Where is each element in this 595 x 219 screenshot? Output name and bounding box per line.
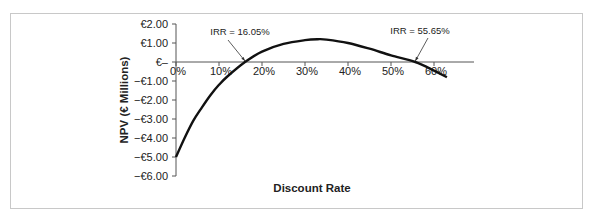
x-axis-title: Discount Rate [273, 182, 350, 194]
y-tick-label: €– [156, 56, 169, 68]
y-tick-label: −€6.00 [134, 170, 168, 182]
x-tick-label: 50% [382, 65, 404, 77]
irr-annotations: IRR = 16.05%IRR = 55.65% [210, 25, 450, 62]
y-tick-label: −€3.00 [134, 113, 168, 125]
x-tick-label: 30% [296, 65, 318, 77]
y-tick-label: −€4.00 [134, 132, 168, 144]
npv-curve [176, 39, 447, 157]
y-axis: €2.00€1.00€–−€1.00−€2.00−€3.00−€4.00−€5.… [134, 18, 176, 182]
x-tick-label: 20% [253, 65, 275, 77]
y-tick-label: −€5.00 [134, 151, 168, 163]
y-tick-label: −€2.00 [134, 94, 168, 106]
y-tick-label: −€1.00 [134, 75, 168, 87]
x-tick-label: 40% [339, 65, 361, 77]
x-tick-label: 0% [170, 65, 186, 77]
x-axis: 0%10%20%30%40%50%60% [170, 62, 474, 77]
y-tick-label: €1.00 [140, 37, 168, 49]
y-tick-label: €2.00 [140, 18, 168, 30]
npv-chart: €2.00€1.00€–−€1.00−€2.00−€3.00−€4.00−€5.… [0, 0, 595, 219]
y-axis-title: NPV (€ Millions) [118, 56, 130, 143]
irr-annotation-label: IRR = 55.65% [390, 25, 450, 36]
irr-annotation-label: IRR = 16.05% [210, 26, 270, 37]
